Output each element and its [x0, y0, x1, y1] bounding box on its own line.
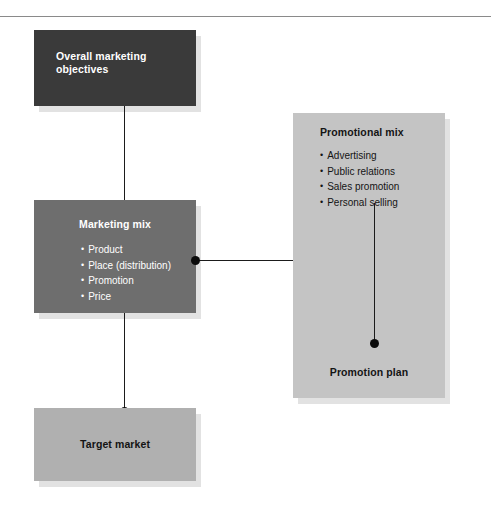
list-item: Product [81, 242, 171, 258]
list-item: Public relations [320, 164, 399, 180]
connector-marketing-mix-to-promotional-mix [196, 260, 294, 261]
list-item: Place (distribution) [81, 258, 171, 274]
list-item: Sales promotion [320, 179, 399, 195]
list-item: Personal selling [320, 195, 399, 211]
box-target-market: Target market [34, 408, 196, 481]
connector-marketing-mix-to-target-market [124, 313, 125, 412]
connector-promotional-mix-to-promotion-plan [374, 203, 375, 343]
box-marketing-mix-title: Marketing mix [34, 218, 196, 230]
box-promotion-plan-title: Promotion plan [293, 366, 445, 378]
list-item: Promotion [81, 273, 171, 289]
connector-objectives-to-marketing-mix [124, 106, 125, 205]
node-dot-marketing-mix-right [191, 256, 200, 265]
header-divider [0, 16, 491, 17]
box-promotional-mix: Promotional mix Advertising Public relat… [293, 113, 445, 398]
list-item: Advertising [320, 148, 399, 164]
box-target-market-title: Target market [34, 438, 196, 450]
box-overall-marketing-objectives: Overall marketing objectives [34, 30, 196, 106]
box-overall-marketing-objectives-title: Overall marketing objectives [56, 50, 186, 76]
node-dot-promotion-plan [370, 339, 379, 348]
box-marketing-mix: Marketing mix Product Place (distributio… [34, 200, 196, 313]
box-promotional-mix-title: Promotional mix [320, 126, 404, 138]
diagram-canvas: Overall marketing objectives Marketing m… [0, 0, 491, 512]
box-promotional-mix-bullet-list: Advertising Public relations Sales promo… [320, 148, 399, 210]
box-marketing-mix-bullet-list: Product Place (distribution) Promotion P… [81, 242, 171, 304]
list-item: Price [81, 289, 171, 305]
